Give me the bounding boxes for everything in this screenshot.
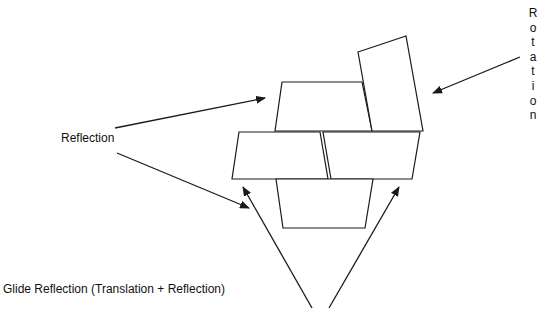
rotation-letter: t xyxy=(527,64,539,79)
rotation-letter: R xyxy=(527,6,539,21)
rotation-letter: a xyxy=(527,50,539,65)
rotation-letter: i xyxy=(527,79,539,94)
middle-right-shape xyxy=(323,132,420,179)
middle-left-shape xyxy=(232,132,328,179)
transformations-diagram xyxy=(0,0,550,319)
reflection-arrow-upper xyxy=(115,98,265,128)
rotation-arrow xyxy=(433,57,520,93)
reflection-label: Reflection xyxy=(61,131,114,145)
rotation-label: R o t a t i o n xyxy=(527,6,539,123)
rotation-letter: t xyxy=(527,35,539,50)
rotation-letter: o xyxy=(527,94,539,109)
rotation-letter: o xyxy=(527,21,539,36)
glide-reflection-label: Glide Reflection (Translation + Reflecti… xyxy=(3,282,225,296)
reflection-arrow-lower xyxy=(117,153,249,208)
rotation-letter: n xyxy=(527,108,539,123)
top-trapezoid-shape xyxy=(275,82,372,131)
bottom-trapezoid-shape xyxy=(276,179,373,228)
